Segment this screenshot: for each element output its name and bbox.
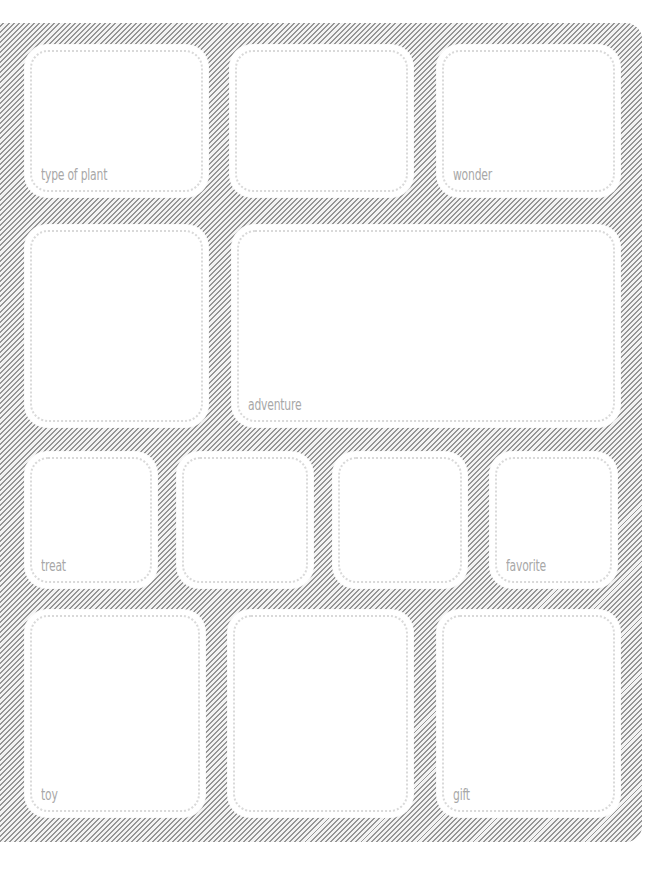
box-label: type of plant	[41, 168, 107, 183]
box-row3-third[interactable]	[333, 452, 467, 588]
box-favorite[interactable]: favorite	[490, 452, 617, 588]
box-label: favorite	[506, 559, 546, 574]
worksheet-page: type of plant wonder adventure treat fav…	[0, 0, 668, 871]
box-toy[interactable]: toy	[25, 610, 205, 817]
box-wonder[interactable]: wonder	[437, 45, 620, 197]
box-gift[interactable]: gift	[437, 610, 620, 817]
box-row2-left[interactable]	[25, 225, 208, 427]
box-label: wonder	[453, 168, 492, 183]
box-treat[interactable]: treat	[25, 452, 157, 588]
box-row3-second[interactable]	[177, 452, 313, 588]
box-label: adventure	[248, 398, 301, 413]
box-label: gift	[453, 788, 470, 803]
box-type-of-plant[interactable]: type of plant	[25, 45, 208, 197]
box-adventure[interactable]: adventure	[232, 225, 620, 427]
box-row1-middle[interactable]	[230, 45, 413, 197]
box-label: treat	[41, 559, 66, 574]
box-row4-middle[interactable]	[228, 610, 413, 817]
box-label: toy	[41, 788, 58, 803]
